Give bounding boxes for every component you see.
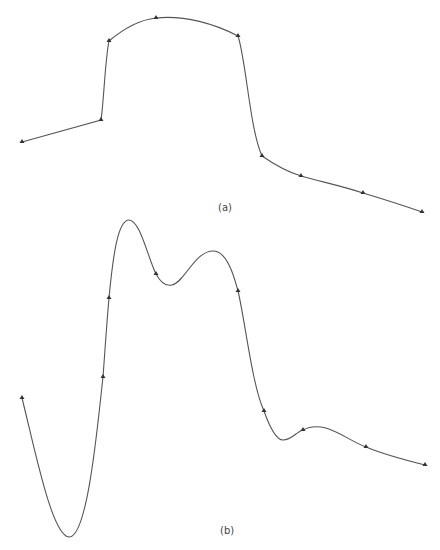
curve-a [22, 17, 422, 212]
curve-b [22, 220, 425, 537]
nodes-b [20, 271, 428, 466]
figure-canvas [0, 0, 440, 550]
caption-a: (a) [218, 202, 232, 213]
nodes-a [20, 15, 425, 213]
caption-b: (b) [220, 525, 234, 536]
